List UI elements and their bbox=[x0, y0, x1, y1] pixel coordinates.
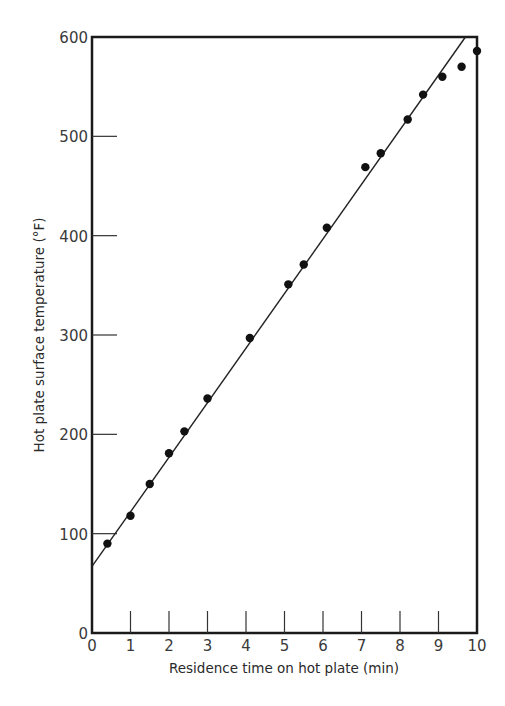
y-tick-label: 0 bbox=[78, 625, 88, 643]
y-axis-ticks: 0100200300400500600 bbox=[59, 29, 117, 643]
data-point bbox=[165, 449, 173, 457]
y-tick-label: 500 bbox=[59, 128, 88, 146]
data-point bbox=[300, 260, 308, 268]
data-point bbox=[246, 334, 254, 342]
data-point bbox=[284, 280, 292, 288]
data-point bbox=[457, 63, 465, 71]
y-tick-label: 100 bbox=[59, 526, 88, 544]
data-point bbox=[404, 115, 412, 123]
data-points bbox=[103, 47, 481, 548]
data-point bbox=[103, 539, 111, 547]
x-tick-label: 4 bbox=[241, 637, 251, 655]
data-point bbox=[473, 47, 481, 55]
plot-border bbox=[92, 37, 477, 633]
data-point bbox=[146, 480, 154, 488]
data-point bbox=[361, 163, 369, 171]
y-tick-label: 200 bbox=[59, 426, 88, 444]
y-tick-label: 400 bbox=[59, 228, 88, 246]
y-axis-label: Hot plate surface temperature (°F) bbox=[31, 218, 47, 453]
data-point bbox=[126, 512, 134, 520]
x-tick-label: 10 bbox=[467, 637, 486, 655]
x-tick-label: 2 bbox=[164, 637, 174, 655]
y-tick-label: 600 bbox=[59, 29, 88, 47]
data-point bbox=[203, 394, 211, 402]
x-tick-label: 9 bbox=[434, 637, 444, 655]
data-point bbox=[419, 90, 427, 98]
y-tick-label: 300 bbox=[59, 327, 88, 345]
plot-frame bbox=[92, 37, 477, 633]
data-point bbox=[180, 427, 188, 435]
x-tick-label: 0 bbox=[87, 637, 97, 655]
x-tick-label: 3 bbox=[203, 637, 213, 655]
x-tick-label: 6 bbox=[318, 637, 328, 655]
data-point bbox=[438, 73, 446, 81]
x-tick-label: 7 bbox=[357, 637, 367, 655]
x-tick-label: 1 bbox=[126, 637, 136, 655]
x-tick-label: 5 bbox=[280, 637, 290, 655]
x-tick-label: 8 bbox=[395, 637, 405, 655]
data-point bbox=[377, 149, 385, 157]
x-axis-label: Residence time on hot plate (min) bbox=[169, 660, 399, 676]
data-point bbox=[323, 224, 331, 232]
chart: 012345678910 0100200300400500600 Residen… bbox=[0, 0, 505, 706]
